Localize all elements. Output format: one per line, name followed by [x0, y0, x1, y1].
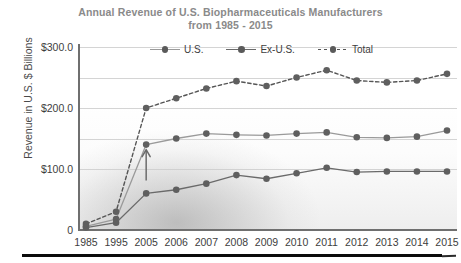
data-point-ex-u-s-2008: Ex-U.S. 2008: 90 [233, 172, 240, 179]
x-tick-label-2015: 2015 [435, 236, 458, 248]
legend-marker-dot [330, 46, 337, 53]
legend-item-u-s[interactable]: U.S. [150, 44, 203, 55]
legend-label: Total [352, 44, 373, 55]
data-point-ex-u-s-2007: Ex-U.S. 2007: 76 [203, 180, 210, 187]
data-point-total-2007: Total 2007: 232 [203, 85, 210, 92]
data-point-u-s-2011: U.S. 2011: 160 [323, 129, 330, 136]
data-point-total-2006: Total 2006: 216 [173, 95, 180, 102]
legend-label: Ex-U.S. [260, 44, 294, 55]
data-point-u-s-2007: U.S. 2007: 158 [203, 130, 210, 137]
legend-swatch [226, 45, 256, 54]
x-tick-label-2014: 2014 [405, 236, 428, 248]
data-point-total-2014: Total 2014: 245 [414, 77, 421, 84]
x-tick-label-2012: 2012 [345, 236, 368, 248]
x-tick-label-2005: 2005 [134, 236, 157, 248]
data-point-u-s-2005: U.S. 2005: 140 [143, 141, 150, 148]
data-point-ex-u-s-2014: Ex-U.S. 2014: 96 [414, 168, 421, 175]
data-point-u-s-2010: U.S. 2010: 158 [293, 130, 300, 137]
data-point-u-s-2008: U.S. 2008: 156 [233, 132, 240, 139]
series-line-total [86, 70, 447, 224]
legend-marker-dot [162, 46, 169, 53]
y-axis-ticks: $300.0$200.0$100.00 [0, 0, 78, 263]
legend-marker-dot [238, 46, 245, 53]
data-point-ex-u-s-2005: Ex-U.S. 2005: 60 [143, 190, 150, 197]
y-tick-label-100: $100.0 [41, 163, 73, 175]
x-tick-label-1995: 1995 [104, 236, 127, 248]
data-point-u-s-2013: U.S. 2013: 151 [384, 135, 391, 142]
data-point-total-2015: Total 2015: 256 [444, 71, 451, 78]
data-point-total-2011: Total 2011: 262 [323, 67, 330, 74]
data-point-total-2008: Total 2008: 244 [233, 78, 240, 85]
x-tick-label-2006: 2006 [165, 236, 188, 248]
data-point-ex-u-s-2010: Ex-U.S. 2010: 93 [293, 170, 300, 177]
data-point-total-2013: Total 2013: 242 [384, 79, 391, 86]
data-point-ex-u-s-2009: Ex-U.S. 2009: 84 [263, 175, 270, 182]
chart-page: Annual Revenue of U.S. Biopharmaceutical… [0, 0, 461, 263]
series-ex-u-s: Ex-U.S. 1985: 4Ex-U.S. 1995: 12Ex-U.S. 2… [83, 164, 451, 230]
legend-label: U.S. [184, 44, 203, 55]
data-point-ex-u-s-2012: Ex-U.S. 2012: 95 [353, 169, 360, 176]
y-tick-label-0: 0 [67, 224, 73, 236]
data-point-total-2009: Total 2009: 236 [263, 83, 270, 90]
plot-area: U.S. 1985: 6U.S. 1995: 18U.S. 2005: 140U… [78, 47, 457, 230]
x-tick-label-2010: 2010 [285, 236, 308, 248]
data-point-u-s-2006: U.S. 2006: 150 [173, 135, 180, 142]
data-point-ex-u-s-2006: Ex-U.S. 2006: 66 [173, 186, 180, 193]
data-point-ex-u-s-1995: Ex-U.S. 1995: 12 [113, 219, 120, 226]
y-tick-label-300: $300.0 [41, 41, 73, 53]
arrow-up-icon [142, 150, 150, 181]
bottom-rule-tail [442, 255, 456, 257]
x-tick-label-2013: 2013 [375, 236, 398, 248]
data-point-u-s-2014: U.S. 2014: 153 [414, 133, 421, 140]
data-point-ex-u-s-2013: Ex-U.S. 2013: 96 [384, 168, 391, 175]
data-point-u-s-2009: U.S. 2009: 155 [263, 132, 270, 139]
data-point-total-2012: Total 2012: 245 [353, 77, 360, 84]
series-total: Total 1985: 10Total 1995: 30Total 2005: … [83, 67, 451, 227]
bottom-rule [22, 254, 442, 257]
data-point-u-s-2012: U.S. 2012: 152 [353, 134, 360, 141]
legend-item-ex-u-s[interactable]: Ex-U.S. [226, 44, 294, 55]
x-tick-label-2008: 2008 [225, 236, 248, 248]
legend-swatch [150, 45, 180, 54]
legend-swatch [318, 45, 348, 54]
data-point-total-1995: Total 1995: 30 [113, 208, 120, 215]
y-tick-label-200: $200.0 [41, 102, 73, 114]
data-point-total-1985: Total 1985: 10 [83, 221, 90, 228]
data-point-total-2005: Total 2005: 200 [143, 105, 150, 112]
x-tick-label-1985: 1985 [74, 236, 97, 248]
chart-title-line1: Annual Revenue of U.S. Biopharmaceutical… [78, 6, 383, 18]
series-layer: U.S. 1985: 6U.S. 1995: 18U.S. 2005: 140U… [78, 47, 457, 230]
x-tick-label-2007: 2007 [195, 236, 218, 248]
x-tick-label-2011: 2011 [315, 236, 338, 248]
chart-legend: U.S.Ex-U.S.Total [150, 44, 373, 55]
data-point-u-s-2015: U.S. 2015: 163 [444, 127, 451, 134]
data-point-ex-u-s-2015: Ex-U.S. 2015: 96 [444, 168, 451, 175]
data-point-ex-u-s-2011: Ex-U.S. 2011: 102 [323, 164, 330, 171]
legend-item-total[interactable]: Total [318, 44, 373, 55]
x-tick-label-2009: 2009 [255, 236, 278, 248]
data-point-total-2010: Total 2010: 250 [293, 74, 300, 81]
